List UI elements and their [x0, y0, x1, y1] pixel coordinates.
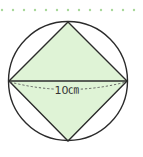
diagram-canvas: 10㎝ — [0, 0, 143, 157]
dotted-border — [1, 9, 135, 11]
dimension-label: 10㎝ — [55, 84, 80, 97]
geometry-figure: 10㎝ — [0, 0, 143, 157]
